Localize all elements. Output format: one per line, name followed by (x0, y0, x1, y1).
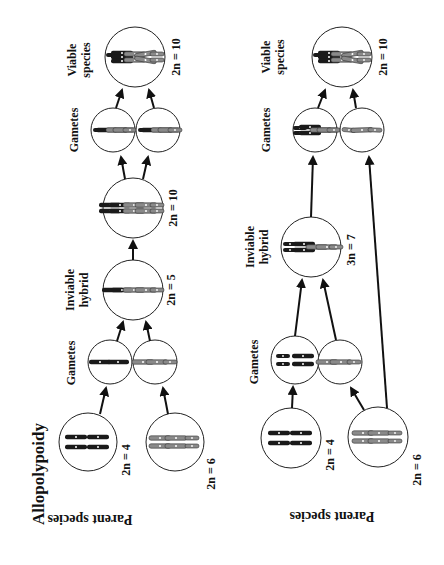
top-gamete-a (88, 340, 132, 384)
top-hybrid-label-line2: hybrid (77, 272, 91, 307)
bottom-hybrid-label-line1: Inviable (243, 225, 257, 268)
diagram-title: Allopolypoidy (29, 422, 48, 525)
bottom-gametes-label: Gametes (247, 339, 261, 384)
bottom-panel: Parent species 2n = 4 2n = 6 Gametes (243, 27, 424, 524)
bottom-viable-count: 2n = 10 (376, 38, 390, 76)
top-gamete2-b (136, 108, 182, 152)
bottom-viable-label-line1: Viable (259, 40, 273, 74)
bottom-gamete-b (316, 340, 362, 384)
top-parent-a-count: 2n = 4 (119, 444, 133, 476)
bottom-viable-species-cell (312, 27, 372, 87)
bottom-gametes2-label: Gametes (259, 107, 273, 152)
allopolyploidy-diagram: Allopolypoidy Parent species 2n = 4 2n =… (0, 0, 444, 565)
bottom-hybrid-label-line2: hybrid (257, 229, 271, 264)
top-hybrid-label-line1: Inviable (63, 268, 77, 311)
top-parent-species-label: Parent species (47, 512, 132, 527)
top-gamete-b (132, 340, 177, 384)
bottom-parent-a-cell (261, 408, 321, 468)
top-gametes2-label: Gametes (67, 107, 81, 152)
bottom-parent-b-cell (348, 407, 408, 467)
top-doubled-count: 2n = 10 (166, 189, 180, 227)
top-viable-count: 2n = 10 (169, 38, 183, 76)
bottom-gamete-a (271, 336, 319, 384)
top-viable-label-line1: Viable (65, 43, 79, 77)
top-hybrid-count: 2n = 5 (164, 274, 178, 306)
top-parent-b-count: 2n = 6 (204, 458, 218, 490)
top-parent-a-cell (59, 413, 117, 471)
bottom-inviable-hybrid-cell (281, 217, 343, 277)
top-viable-species-cell (105, 27, 165, 87)
bottom-hybrid-count: 3n = 7 (344, 234, 358, 266)
bottom-viable-label-line2: species (273, 39, 287, 75)
top-inviable-hybrid-cell (102, 260, 164, 320)
bottom-parent-b-count: 2n = 6 (410, 454, 424, 486)
bottom-gamete2-a (293, 108, 341, 152)
bottom-parent-a-count: 2n = 4 (323, 439, 337, 471)
top-doubled-cell (99, 178, 164, 238)
top-panel: Allopolypoidy Parent species 2n = 4 2n =… (29, 27, 218, 527)
bottom-gamete2-b (340, 108, 384, 152)
bottom-parent-species-label: Parent species (289, 509, 374, 524)
top-viable-label-line2: species (79, 42, 93, 78)
top-gametes-label: Gametes (64, 340, 78, 385)
top-parent-b-cell (146, 413, 204, 471)
top-gamete2-a (91, 108, 137, 152)
